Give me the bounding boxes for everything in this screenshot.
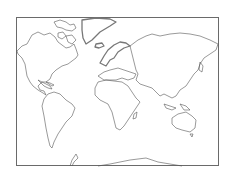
central-america — [38, 80, 54, 89]
europe — [98, 68, 136, 80]
antarctica — [70, 154, 182, 166]
tasmania — [190, 134, 193, 137]
greenland — [82, 18, 116, 44]
south-america — [42, 92, 75, 148]
indonesia — [164, 104, 190, 110]
asia — [130, 33, 218, 98]
north-america — [17, 32, 78, 95]
japan — [199, 62, 203, 72]
madagascar — [133, 112, 137, 119]
africa — [95, 80, 140, 130]
iceland — [95, 43, 104, 48]
world-map — [0, 0, 227, 175]
australia — [172, 112, 196, 132]
